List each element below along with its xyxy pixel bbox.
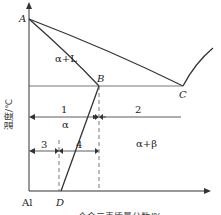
liquidus-right bbox=[183, 48, 213, 86]
y-axis-label: 温度/℃ bbox=[3, 99, 14, 130]
point-c-label: C bbox=[179, 89, 187, 100]
y-axis-arrow-icon bbox=[26, 2, 32, 9]
y-axis bbox=[26, 2, 32, 191]
phase-diagram: A B C D Al α+L α α+β 1 2 3 4 温度/℃ 合金元素质量… bbox=[0, 0, 221, 215]
point-b-label: B bbox=[96, 73, 104, 84]
liquidus-line bbox=[29, 19, 183, 86]
point-a-label: A bbox=[18, 13, 26, 24]
region-alpha-beta: α+β bbox=[136, 138, 157, 149]
x-axis-label: 合金元素质量分数/% bbox=[78, 211, 162, 215]
point-d-label: D bbox=[55, 197, 64, 208]
range-1-label: 1 bbox=[61, 104, 67, 115]
range-2-label: 2 bbox=[135, 104, 141, 115]
range-4-label: 4 bbox=[76, 139, 82, 150]
range-3-label: 3 bbox=[41, 139, 47, 150]
x-axis-arrow-icon bbox=[204, 188, 211, 194]
x-axis bbox=[29, 188, 211, 194]
region-alpha-l: α+L bbox=[55, 53, 77, 64]
origin-label: Al bbox=[21, 197, 32, 208]
region-alpha: α bbox=[62, 119, 69, 130]
